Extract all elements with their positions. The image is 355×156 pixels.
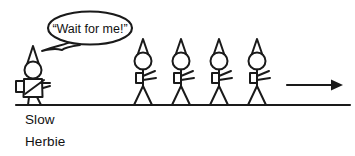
walker-leg-right [181, 86, 190, 105]
herbie-backpack-icon [16, 81, 24, 92]
walker-figure [134, 39, 156, 105]
walker-figure [172, 39, 194, 105]
walker-leg-left [248, 86, 257, 105]
walker-leg-right [257, 86, 266, 105]
illustration-canvas: “Wait for me!” [0, 0, 355, 156]
herbie-hand-tick [43, 86, 50, 88]
walker-leg-right [219, 86, 228, 105]
walker-arm-lower [181, 78, 194, 80]
stick-figure-illustration: “Wait for me!” [0, 0, 355, 156]
walker-arm-lower [257, 78, 270, 80]
walker-backpack-icon [212, 73, 219, 83]
walker-figure [210, 39, 232, 105]
walker-arm-lower [219, 78, 232, 80]
walker-backpack-icon [174, 73, 181, 83]
walker-leg-left [134, 86, 143, 105]
caption-line-1: Slow [25, 112, 55, 127]
walker-leg-left [210, 86, 219, 105]
walker-figure [248, 39, 270, 105]
walker-leg-right [143, 86, 152, 105]
walker-arm-upper [219, 71, 231, 76]
speech-bubble: “Wait for me!” [42, 12, 132, 52]
caption: Slow Herbie [25, 112, 65, 149]
walker-head [135, 53, 152, 70]
walker-head [211, 53, 228, 70]
walker-head [173, 53, 190, 70]
herbie-leg-right [37, 97, 41, 105]
walker-backpack-icon [250, 73, 257, 83]
walker-arm-upper [257, 71, 269, 76]
herbie-head [25, 62, 42, 79]
walker-arm-lower [143, 78, 156, 80]
direction-arrow-icon [287, 80, 343, 91]
walker-backpack-icon [136, 73, 143, 83]
walker-arm-upper [143, 71, 155, 76]
caption-line-2: Herbie [25, 134, 65, 149]
slow-herbie-figure [16, 46, 50, 105]
walker-leg-left [172, 86, 181, 105]
walker-arm-upper [181, 71, 193, 76]
speech-bubble-label: “Wait for me!” [52, 22, 127, 36]
herbie-leg-left [28, 97, 29, 105]
walker-head [249, 53, 266, 70]
